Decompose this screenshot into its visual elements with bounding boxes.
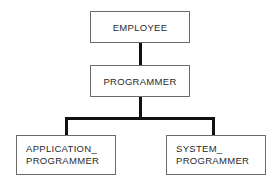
node-label: EMPLOYEE [113, 22, 168, 33]
node-label-line2: PROGRAMMER [26, 155, 99, 167]
edge-to-system-programmer [212, 117, 215, 135]
node-label-line1: APPLICATION_ [26, 143, 97, 155]
edge-employee-programmer [139, 42, 142, 65]
node-application-programmer: APPLICATION_ PROGRAMMER [16, 135, 116, 175]
edge-programmer-trunk [139, 96, 142, 119]
node-label-line2: PROGRAMMER [176, 155, 249, 167]
edge-to-application-programmer [65, 117, 68, 135]
edge-horizontal-bar [65, 117, 215, 120]
node-system-programmer: SYSTEM_ PROGRAMMER [166, 135, 266, 175]
node-programmer: PROGRAMMER [90, 65, 190, 97]
node-employee: EMPLOYEE [90, 11, 190, 43]
node-label-line1: SYSTEM_ [176, 143, 222, 155]
node-label: PROGRAMMER [103, 76, 176, 87]
